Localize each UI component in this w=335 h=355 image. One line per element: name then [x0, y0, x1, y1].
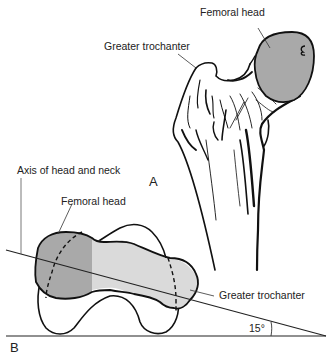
- femoral-head-shape-a: [255, 32, 314, 102]
- label-angle: 15°: [249, 322, 265, 334]
- leader-greater-trochanter-a: [178, 54, 196, 68]
- panel-a: Femoral head Greater trochanter A: [104, 6, 314, 270]
- panel-letter-b: B: [10, 340, 19, 355]
- femur-diagram: Femoral head Greater trochanter A Axis o…: [0, 0, 335, 355]
- label-femoral-head-a: Femoral head: [200, 6, 265, 18]
- label-greater-trochanter-b: Greater trochanter: [219, 289, 305, 301]
- bone-texture: [182, 72, 276, 220]
- label-axis: Axis of head and neck: [17, 164, 121, 176]
- leader-femoral-head-b: [58, 204, 72, 234]
- label-greater-trochanter-a: Greater trochanter: [104, 40, 190, 52]
- panel-letter-a: A: [149, 174, 158, 189]
- panel-b: Axis of head and neck Femoral head Great…: [6, 164, 326, 355]
- label-femoral-head-b: Femoral head: [61, 195, 126, 207]
- angle-arc: [271, 322, 272, 336]
